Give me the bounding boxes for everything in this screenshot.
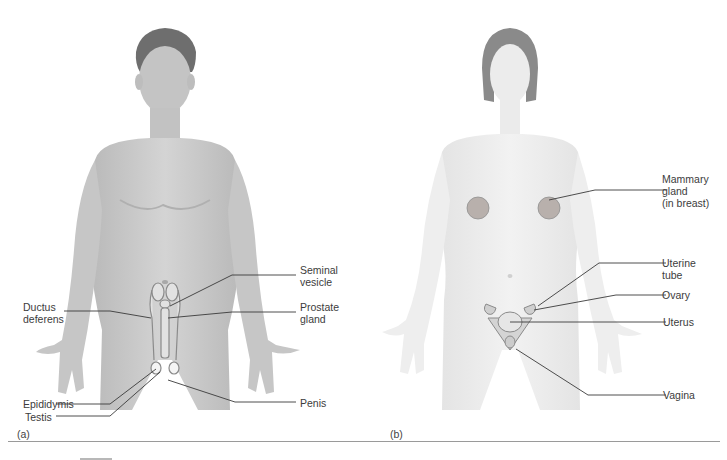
label-uterus: Uterus <box>663 316 694 328</box>
panel-male: Seminal vesicle Ductus deferens Prostate… <box>0 0 360 430</box>
label-testis: Testis <box>25 411 52 423</box>
label-seminal-vesicle: Seminal vesicle <box>300 264 338 288</box>
label-ductus-deferens: Ductus deferens <box>23 301 64 325</box>
panel-letter-b: (b) <box>390 428 403 440</box>
label-vagina: Vagina <box>663 389 695 401</box>
label-uterine-tube: Uterine tube <box>662 257 696 281</box>
figure-divider-rule <box>8 441 720 442</box>
male-figure-illustration <box>0 0 360 430</box>
label-mammary-gland: Mammary gland (in breast) <box>662 173 709 209</box>
panel-female: Mammary gland (in breast) Uterine tube O… <box>360 0 727 430</box>
label-penis: Penis <box>300 397 326 409</box>
label-ovary: Ovary <box>662 289 690 301</box>
panel-letter-a: (a) <box>17 428 30 440</box>
label-epididymis: Epididymis <box>23 398 74 410</box>
female-figure-illustration <box>360 0 727 430</box>
label-prostate-gland: Prostate gland <box>300 301 339 325</box>
